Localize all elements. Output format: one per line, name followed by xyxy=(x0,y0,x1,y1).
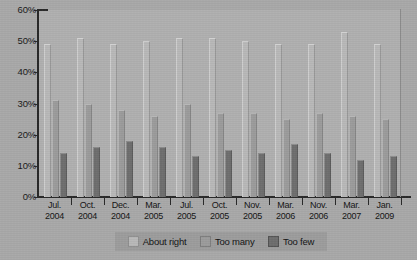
bar-group xyxy=(71,10,104,197)
bar-about xyxy=(77,38,84,197)
bar-about xyxy=(143,41,150,197)
x-axis-tick-mark xyxy=(401,197,402,205)
bar-group xyxy=(368,10,401,197)
x-label-year: 2005 xyxy=(203,211,236,222)
bar-many xyxy=(52,100,59,197)
x-label-year: 2006 xyxy=(269,211,302,222)
x-axis-tick-label: Mar.2007 xyxy=(335,200,368,222)
bar-group xyxy=(203,10,236,197)
bar-few xyxy=(225,150,232,197)
x-label-month: Jul. xyxy=(48,200,61,210)
bar-many xyxy=(118,110,125,197)
bar-chart: 60%50%40%30%20%10%0% About rightToo many… xyxy=(0,0,417,260)
legend-swatch-icon xyxy=(200,236,211,247)
x-label-month: Nov. xyxy=(310,200,327,210)
x-axis-tick-label: Dec.2004 xyxy=(104,200,137,222)
bar-few xyxy=(291,144,298,197)
bar-many xyxy=(85,104,92,198)
legend-label: Too many xyxy=(215,236,255,247)
bar-group xyxy=(269,10,302,197)
bar-about xyxy=(374,44,381,197)
x-label-month: Mar. xyxy=(145,200,162,210)
y-axis-tick-label: 60% xyxy=(2,5,36,15)
legend-swatch-icon xyxy=(268,236,279,247)
x-axis-tick-label: Nov.2006 xyxy=(302,200,335,222)
bar-group xyxy=(170,10,203,197)
bar-group xyxy=(38,10,71,197)
x-label-month: Mar. xyxy=(277,200,294,210)
x-label-year: 2004 xyxy=(38,211,71,222)
x-label-month: Jan. xyxy=(376,200,392,210)
bar-groups xyxy=(38,10,401,197)
x-axis-tick-mark xyxy=(170,197,171,205)
bar-few xyxy=(126,141,133,197)
bar-about xyxy=(275,44,282,197)
bar-few xyxy=(258,153,265,197)
x-axis-tick-mark xyxy=(137,197,138,205)
x-axis-tick-label: Jul.2004 xyxy=(38,200,71,222)
legend-item-few[interactable]: Too few xyxy=(268,236,314,247)
y-axis: 60%50%40%30%20%10%0% xyxy=(0,0,36,260)
x-label-year: 2005 xyxy=(137,211,170,222)
x-label-month: Oct. xyxy=(212,200,228,210)
x-label-month: Jul. xyxy=(180,200,193,210)
y-axis-tick-label: 30% xyxy=(2,99,36,109)
bar-many xyxy=(349,116,356,197)
legend-item-many[interactable]: Too many xyxy=(200,236,255,247)
x-axis-tick-mark xyxy=(368,197,369,205)
y-axis-tick-label: 0% xyxy=(2,192,36,202)
x-axis-tick-label: Oct.2004 xyxy=(71,200,104,222)
bar-group xyxy=(236,10,269,197)
x-label-year: 2004 xyxy=(104,211,137,222)
bar-group xyxy=(335,10,368,197)
bar-about xyxy=(44,44,51,197)
x-label-month: Oct. xyxy=(80,200,96,210)
bar-few xyxy=(324,153,331,197)
legend-swatch-icon xyxy=(128,236,139,247)
bar-many xyxy=(250,113,257,197)
y-axis-tick-label: 20% xyxy=(2,130,36,140)
x-axis-tick-label: Mar.2006 xyxy=(269,200,302,222)
x-axis-tick-label: Jul.2005 xyxy=(170,200,203,222)
bar-many xyxy=(316,113,323,197)
x-label-year: 2007 xyxy=(335,211,368,222)
y-axis-tick-label: 10% xyxy=(2,161,36,171)
x-label-year: 2004 xyxy=(71,211,104,222)
bar-few xyxy=(93,147,100,197)
x-axis-tick-mark xyxy=(269,197,270,205)
x-axis-tick-label: Nov.2005 xyxy=(236,200,269,222)
x-axis-tick-mark xyxy=(104,197,105,205)
y-axis-tick-label: 40% xyxy=(2,67,36,77)
bar-few xyxy=(60,153,67,197)
x-label-year: 2009 xyxy=(368,211,401,222)
x-axis-tick-label: Mar.2005 xyxy=(137,200,170,222)
bar-many xyxy=(382,119,389,197)
legend-item-about[interactable]: About right xyxy=(128,236,187,247)
x-axis-tick-label: Oct.2005 xyxy=(203,200,236,222)
bar-about xyxy=(209,38,216,197)
legend-label: About right xyxy=(143,236,187,247)
bar-group xyxy=(104,10,137,197)
x-axis-tick-label: Jan.2009 xyxy=(368,200,401,222)
bar-few xyxy=(390,156,397,197)
y-axis-tick-label: 50% xyxy=(2,36,36,46)
x-label-month: Mar. xyxy=(343,200,360,210)
chart-legend: About rightToo manyToo few xyxy=(115,232,327,251)
x-axis-tick-mark xyxy=(71,197,72,205)
x-axis-tick-mark xyxy=(236,197,237,205)
bar-group xyxy=(302,10,335,197)
bar-many xyxy=(151,116,158,197)
bar-about xyxy=(308,44,315,197)
x-axis-tick-mark xyxy=(335,197,336,205)
bar-many xyxy=(184,104,191,198)
x-axis-tick-mark xyxy=(203,197,204,205)
bar-few xyxy=(357,160,364,197)
x-label-month: Nov. xyxy=(244,200,261,210)
bar-few xyxy=(159,147,166,197)
x-axis-tick-mark xyxy=(302,197,303,205)
bar-about xyxy=(110,44,117,197)
x-label-year: 2005 xyxy=(236,211,269,222)
bar-many xyxy=(217,113,224,197)
bar-few xyxy=(192,156,199,197)
x-label-month: Dec. xyxy=(112,200,130,210)
